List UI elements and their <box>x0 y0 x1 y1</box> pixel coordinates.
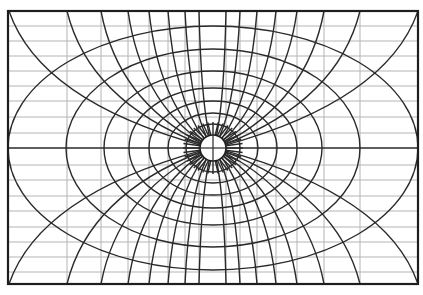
coordinate-grid-diagram <box>0 0 423 295</box>
coordinate-ray-curve <box>224 11 297 142</box>
coordinate-ray-curve <box>217 161 227 285</box>
coordinate-ray-curve <box>224 154 297 284</box>
coordinate-ray-curve <box>199 161 209 285</box>
center-circle <box>200 135 226 161</box>
